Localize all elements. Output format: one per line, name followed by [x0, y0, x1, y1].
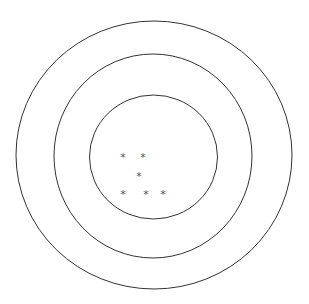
asterisk-mark-icon: * [160, 188, 166, 201]
ring-middle [54, 54, 252, 258]
ring-inner [90, 95, 218, 219]
asterisk-mark-icon: * [120, 151, 126, 164]
asterisk-mark-icon: * [136, 170, 142, 183]
target-rings [16, 21, 292, 289]
hit-marks: ****** [120, 151, 166, 201]
asterisk-mark-icon: * [120, 188, 126, 201]
target-diagram: ****** [0, 0, 309, 304]
asterisk-mark-icon: * [140, 151, 146, 164]
ring-outer [16, 21, 292, 289]
asterisk-mark-icon: * [143, 188, 149, 201]
